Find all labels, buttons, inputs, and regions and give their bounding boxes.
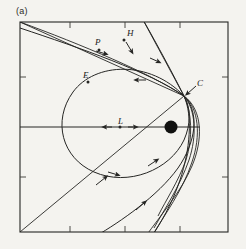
orbit-diagram: L E P H C [0,0,246,249]
central-mass-focus [165,121,178,134]
ellipse-E-arrow-bottom [108,172,118,175]
common-point-C-arrow [187,86,196,94]
branch-arrow-mid [148,160,157,166]
branch-arrow-lower-left [96,177,106,185]
label-hyperbola-H: H [126,28,134,38]
hyperbola-H-arrow [126,42,132,52]
ray-upper-right [142,18,184,96]
parabola-P-label-dot [98,49,101,52]
hyperbola-H-label-dot [123,39,126,42]
label-line-L: L [117,116,123,126]
ray-lower-left [20,96,184,232]
ray-upper-left [20,22,184,96]
label-ellipse-E: E [82,70,89,80]
ellipse-E-label-dot [87,81,90,84]
label-parabola-P: P [94,37,101,47]
label-common-point-C: C [197,78,204,88]
branch-arrow-lower-right [136,202,145,210]
branch-arrow-upper [150,58,159,62]
figure-panel: (a) [0,0,246,249]
